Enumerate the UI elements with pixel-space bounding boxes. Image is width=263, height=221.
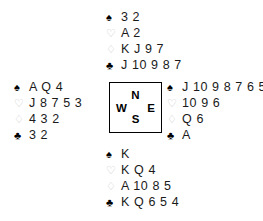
north-diamond-row: ♢ K J 9 7: [106, 41, 182, 57]
compass-south-label: S: [110, 114, 161, 126]
club-icon: ♣: [106, 57, 119, 73]
spade-icon: ♠: [106, 146, 119, 162]
club-icon: ♣: [106, 194, 119, 210]
east-spade-ranks: J 10 9 8 7 6 5: [180, 79, 263, 95]
south-diamond-row: ♢ A 10 8 5: [106, 178, 179, 194]
spade-icon: ♠: [14, 79, 27, 95]
east-hand: ♠ J 10 9 8 7 6 5 ♡ 10 9 6 ♢ Q 6 ♣ A: [167, 79, 263, 143]
spade-icon: ♠: [106, 9, 119, 25]
heart-icon: ♡: [106, 25, 119, 41]
south-heart-row: ♡ K Q 4: [106, 162, 179, 178]
north-spade-row: ♠ 3 2: [106, 9, 182, 25]
bridge-deal-diagram: ♠ 3 2 ♡ A 2 ♢ K J 9 7 ♣ J 10 9 8 7 ♠ A Q…: [0, 0, 263, 221]
diamond-icon: ♢: [106, 41, 119, 57]
heart-icon: ♡: [14, 95, 27, 111]
north-heart-ranks: A 2: [119, 25, 141, 41]
compass-box: N W E S: [109, 82, 162, 133]
club-icon: ♣: [14, 127, 27, 143]
east-diamond-ranks: Q 6: [180, 111, 204, 127]
west-heart-row: ♡ J 8 7 5 3: [14, 95, 82, 111]
heart-icon: ♡: [106, 162, 119, 178]
east-club-ranks: A: [180, 127, 191, 143]
west-diamond-ranks: 4 3 2: [27, 111, 60, 127]
west-diamond-row: ♢ 4 3 2: [14, 111, 82, 127]
west-spade-ranks: A Q 4: [27, 79, 63, 95]
diamond-icon: ♢: [14, 111, 27, 127]
east-spade-row: ♠ J 10 9 8 7 6 5: [167, 79, 263, 95]
north-diamond-ranks: K J 9 7: [119, 41, 164, 57]
south-diamond-ranks: A 10 8 5: [119, 178, 172, 194]
south-spade-ranks: K: [119, 146, 130, 162]
east-heart-row: ♡ 10 9 6: [167, 95, 263, 111]
north-hand: ♠ 3 2 ♡ A 2 ♢ K J 9 7 ♣ J 10 9 8 7: [106, 9, 182, 73]
north-heart-row: ♡ A 2: [106, 25, 182, 41]
south-heart-ranks: K Q 4: [119, 162, 156, 178]
north-club-row: ♣ J 10 9 8 7: [106, 57, 182, 73]
club-icon: ♣: [167, 127, 180, 143]
diamond-icon: ♢: [106, 178, 119, 194]
north-club-ranks: J 10 9 8 7: [119, 57, 182, 73]
south-hand: ♠ K ♡ K Q 4 ♢ A 10 8 5 ♣ K Q 6 5 4: [106, 146, 179, 210]
east-club-row: ♣ A: [167, 127, 263, 143]
east-diamond-row: ♢ Q 6: [167, 111, 263, 127]
diamond-icon: ♢: [167, 111, 180, 127]
spade-icon: ♠: [167, 79, 180, 95]
west-club-ranks: 3 2: [27, 127, 48, 143]
west-spade-row: ♠ A Q 4: [14, 79, 82, 95]
west-hand: ♠ A Q 4 ♡ J 8 7 5 3 ♢ 4 3 2 ♣ 3 2: [14, 79, 82, 143]
east-heart-ranks: 10 9 6: [180, 95, 220, 111]
heart-icon: ♡: [167, 95, 180, 111]
south-spade-row: ♠ K: [106, 146, 179, 162]
north-spade-ranks: 3 2: [119, 9, 140, 25]
compass-north-label: N: [110, 90, 161, 102]
south-club-row: ♣ K Q 6 5 4: [106, 194, 179, 210]
west-club-row: ♣ 3 2: [14, 127, 82, 143]
west-heart-ranks: J 8 7 5 3: [27, 95, 82, 111]
south-club-ranks: K Q 6 5 4: [119, 194, 179, 210]
